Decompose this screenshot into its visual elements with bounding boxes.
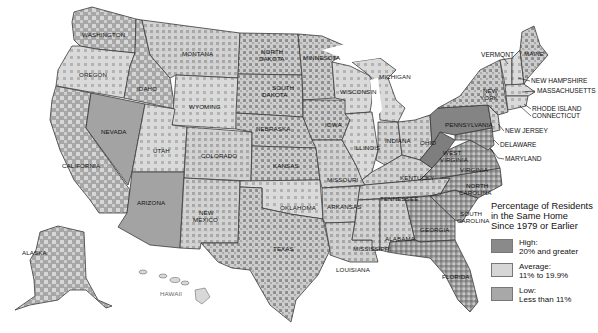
label-iowa: IOWA [325,121,342,128]
label-michigan: MICHIGAN [379,73,411,80]
legend-title: Percentage of Residents in the Same Home… [491,201,596,232]
label-nevada: NEVADA [101,128,127,135]
label-alaska: ALASKA [22,249,47,256]
legend-range-low: Less than 11% [519,295,571,304]
label-wisconsin: WISCONSIN [340,88,377,95]
label-north-carolina-2: CAROLINA [459,189,492,196]
label-mississippi: MISSISSIPPI [353,245,391,252]
label-colorado: COLORADO [201,152,237,159]
label-new-york-2: YORK [480,94,499,101]
label-south-dakota-1: SOUTH [272,84,294,91]
legend-range-average: 11% to 19.9% [519,271,568,280]
label-virginia: VIRGINIA [460,166,489,173]
label-texas: TEXAS [273,245,294,252]
legend-item-low: Low: Less than 11% [491,286,596,304]
label-washington: WASHINGTON [82,31,125,38]
label-nebraska: NEBRASKA [256,125,291,132]
label-tennessee: TENNESSEE [380,195,418,202]
label-pennsylvania: PENNSYLVANIA [445,121,494,128]
label-kentucky: KENTUCKY [400,174,435,181]
legend-title-line-2: in the Same Home [491,211,596,221]
legend-label-low: Low: [519,286,571,295]
label-new-york-1: NEW [483,87,498,94]
label-west-virginia-1: WEST [443,149,461,156]
state-alaska [15,226,112,310]
legend-swatch-low [491,287,513,301]
label-louisiana: LOUISIANA [336,266,371,273]
legend-title-line-3: Since 1979 or Earlier [491,221,596,231]
label-maryland: MARYLAND [505,155,542,162]
label-oklahoma: OKLAHOMA [280,204,317,211]
state-massachusetts [505,84,535,96]
label-south-dakota-2: DAKOTA [262,91,288,98]
legend-range-high: 20% and greater [519,247,578,256]
legend-swatch-high [491,239,513,253]
label-florida: FLORIDA [442,273,470,280]
label-illinois: ILLINOIS [354,144,380,151]
label-arkansas: ARKANSAS [327,203,362,210]
label-utah: UTAH [153,147,170,154]
label-south-carolina-2: CAROLINA [457,217,490,224]
label-wyoming: WYOMING [189,103,221,110]
label-alabama: ALABAMA [385,235,416,242]
label-massachusetts: MASSACHUSETTS [537,87,596,94]
label-north-dakota-2: DAKOTA [259,55,285,62]
label-north-dakota-1: NORTH [261,48,283,55]
label-indiana: INDIANA [385,137,412,144]
label-west-virginia-2: VIRGINIA [440,156,469,163]
label-new-mexico-2: MEXICO [193,216,218,223]
legend-label-average: Average: [519,262,568,271]
legend: Percentage of Residents in the Same Home… [491,201,596,304]
label-maine: MAINE [524,50,544,57]
label-oregon: OREGON [79,71,107,78]
label-minnesota: MINNESOTA [303,54,341,61]
legend-title-line-1: Percentage of Residents [491,201,596,211]
label-new-mexico-1: NEW [199,209,214,216]
state-iowa [303,100,350,140]
state-wyoming [172,75,238,129]
label-montana: MONTANA [182,50,214,57]
label-georgia: GEORGIA [420,226,450,233]
label-new-hampshire: NEW HAMPSHIRE [531,77,588,84]
state-connecticut-ri [506,96,528,110]
state-hawaii [139,270,210,304]
label-vermont: VERMONT [481,51,514,58]
label-ohio: OHIO [420,139,436,146]
label-south-carolina-1: SOUTH [460,210,482,217]
label-california: CALIFORNIA [62,162,101,169]
legend-label-high: High: [519,238,578,247]
legend-item-average: Average: 11% to 19.9% [491,262,596,280]
label-arizona: ARIZONA [137,199,166,206]
label-delaware: DELAWARE [500,141,537,148]
label-rhode-island: RHODE ISLAND [532,105,582,112]
legend-swatch-average [491,263,513,277]
label-idaho: IDAHO [137,85,157,92]
label-new-jersey: NEW JERSEY [505,127,548,134]
legend-item-high: High: 20% and greater [491,238,596,256]
label-kansas: KANSAS [273,162,299,169]
label-north-carolina-1: NORTH [466,182,488,189]
label-connecticut: CONNECTICUT [532,112,580,119]
label-hawaii: HAWAII [160,290,182,297]
label-missouri: MISSOURI [327,176,359,183]
